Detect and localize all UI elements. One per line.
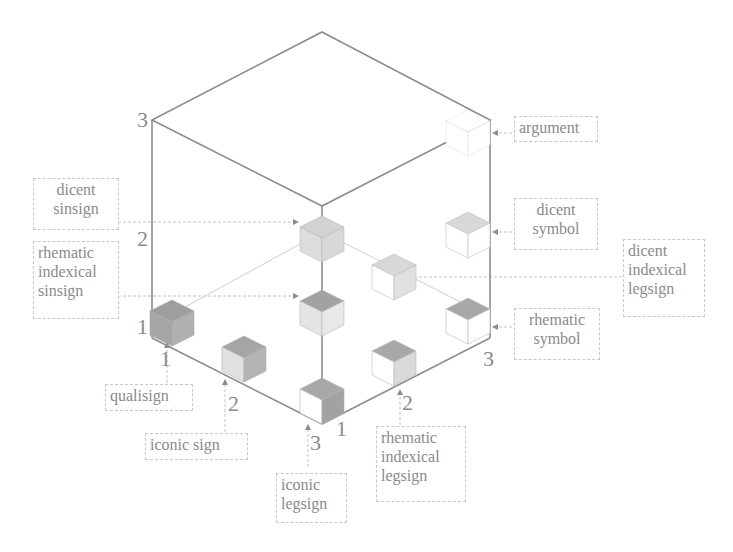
tick-vertical-3: 3 [137, 109, 148, 131]
leader-lines [118, 133, 622, 467]
label-dicent-sinsign: dicent sinsign [33, 178, 119, 230]
label-argument: argument [514, 116, 598, 142]
cube-dicent-sinsign [300, 216, 344, 262]
tick-vertical-2: 2 [137, 228, 148, 250]
cube-iconic-sign [222, 336, 266, 382]
tick-right-3: 3 [483, 348, 494, 370]
label-qualisign: qualisign [105, 384, 193, 411]
cube-dicent-indexical-legsign [372, 254, 416, 300]
label-rhematic-indexical-sinsign: rhematic indexical sinsign [33, 241, 119, 319]
tick-right-2: 2 [402, 392, 413, 414]
cube-rhematic-indexical-sinsign [300, 290, 344, 336]
tick-left-1: 1 [160, 348, 171, 370]
label-rhematic-indexical-legsign: rhematic indexical legsign [376, 426, 466, 502]
tick-left-3: 3 [310, 432, 321, 454]
label-dicent-symbol: dicent symbol [514, 198, 598, 250]
cube-dicent-symbol [446, 212, 490, 258]
tick-right-1: 1 [336, 418, 347, 440]
label-dicent-indexical-legsign: dicent indexical legsign [623, 239, 705, 317]
tick-left-2: 2 [228, 393, 239, 415]
cube-qualisign [150, 300, 194, 346]
tick-vertical-1: 1 [137, 316, 148, 338]
cube-rhematic-symbol [446, 298, 490, 344]
label-rhematic-symbol: rhematic symbol [514, 308, 600, 360]
label-iconic-legsign: iconic legsign [276, 473, 347, 523]
label-iconic-sign: iconic sign [145, 433, 248, 460]
